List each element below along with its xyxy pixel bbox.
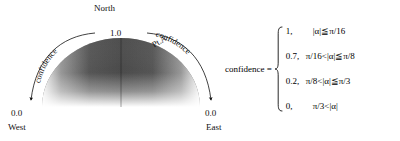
west-label: West — [8, 122, 26, 132]
case-value: 0, — [286, 101, 306, 112]
left-curly-brace — [274, 26, 283, 112]
case-row: 1, |α|≦π/16 — [286, 26, 355, 37]
compass-diagram-svg: confidence confidence — [0, 0, 225, 141]
case-row: 0, π/3<|α| — [286, 101, 355, 112]
case-value: 0.2, — [286, 76, 306, 87]
left-curly-brace-icon — [274, 26, 283, 112]
case-condition: |α|≦π/16 — [306, 26, 345, 37]
confidence-formula-panel: confidence = 1, |α|≦π/16 0.7, π/16<|α|≦π… — [225, 0, 400, 141]
north-label: North — [94, 3, 115, 13]
piecewise-cases-list: 1, |α|≦π/16 0.7, π/16<|α|≦π/8 0.2, π/8<|… — [283, 26, 355, 112]
east-label: East — [206, 122, 222, 132]
case-condition: π/3<|α| — [306, 101, 338, 112]
figure-root: confidence confidence North 1.0 Pt.A 0.0… — [0, 0, 400, 141]
case-condition: π/8<|α|≦π/3 — [306, 76, 350, 87]
west-value-label: 0.0 — [11, 108, 22, 118]
case-value: 0.7, — [286, 51, 306, 62]
case-row: 0.2, π/8<|α|≦π/3 — [286, 76, 355, 87]
confidence-formula: confidence = 1, |α|≦π/16 0.7, π/16<|α|≦π… — [225, 26, 400, 112]
case-condition: π/16<|α|≦π/8 — [306, 51, 355, 62]
compass-confidence-diagram: confidence confidence North 1.0 Pt.A 0.0… — [0, 0, 225, 141]
east-value-label: 0.0 — [205, 108, 216, 118]
peak-value-label: 1.0 — [110, 28, 121, 38]
case-row: 0.7, π/16<|α|≦π/8 — [286, 51, 355, 62]
formula-left-hand-side: confidence = — [225, 64, 274, 74]
case-value: 1, — [286, 26, 306, 37]
